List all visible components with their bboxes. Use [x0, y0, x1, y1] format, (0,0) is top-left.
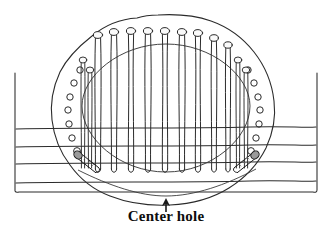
pin-shaft-right	[133, 34, 134, 169]
line-drawing-canvas	[0, 0, 332, 237]
pin-shaft-right	[200, 36, 201, 169]
pin-shaft-left	[211, 41, 212, 169]
pin-shaft-left	[145, 34, 146, 169]
pin-head	[126, 28, 135, 35]
pin-shaft-right	[185, 35, 186, 169]
pin-shaft-right	[167, 34, 168, 169]
pin-head	[177, 29, 186, 36]
pin-shaft-left	[162, 34, 163, 169]
pin-head	[234, 57, 242, 63]
pin-head	[109, 29, 118, 36]
pin-head	[79, 57, 87, 63]
pin-shaft-left	[179, 35, 180, 169]
figure-container: Center hole	[0, 0, 332, 237]
pin-shaft-left	[95, 38, 96, 169]
pin-head	[224, 42, 232, 48]
pin-shaft-right	[101, 38, 102, 169]
pin-head	[143, 28, 152, 35]
pin-shaft-right	[151, 34, 152, 169]
pin-shaft-left	[111, 35, 112, 169]
pin-head	[93, 32, 102, 39]
pin-head	[160, 28, 169, 35]
pin-head	[242, 67, 250, 73]
pin-shaft-right	[216, 41, 217, 169]
pin-shaft-left	[128, 34, 129, 169]
pin-shaft-left	[195, 36, 196, 169]
pin-head	[86, 67, 94, 73]
pin-head	[210, 35, 219, 42]
pin-head	[193, 30, 202, 37]
pin-shaft-right	[117, 35, 118, 169]
